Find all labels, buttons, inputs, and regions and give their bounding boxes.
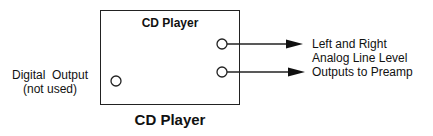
left-analog-jack-icon — [217, 39, 227, 49]
connections-layer — [0, 0, 433, 136]
right-analog-jack-icon — [217, 67, 227, 77]
arrow-right-icon — [288, 68, 305, 77]
digital-output-jack-icon — [111, 76, 121, 86]
arrow-right-icon — [286, 40, 303, 49]
